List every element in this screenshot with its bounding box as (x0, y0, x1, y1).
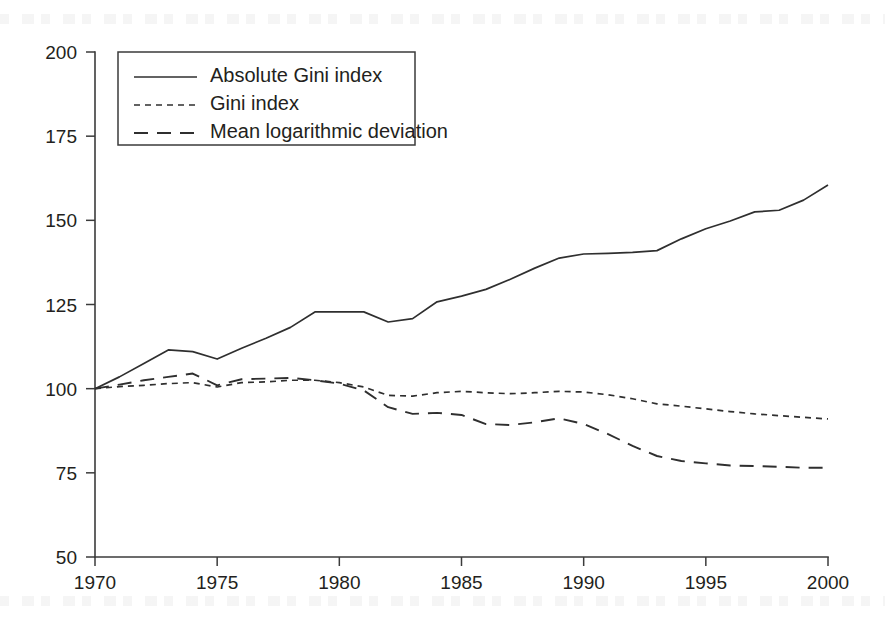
legend-label: Mean logarithmic deviation (210, 120, 448, 142)
line-chart-plot: 5075100125150175200 19701975198019851990… (0, 0, 885, 625)
x-tick-label: 1995 (685, 572, 727, 593)
y-tick-label: 150 (45, 210, 77, 231)
x-tick-label: 1985 (440, 572, 482, 593)
x-tick-label: 1990 (563, 572, 605, 593)
x-axis-ticks: 1970197519801985199019952000 (74, 557, 849, 593)
series-line-gini-index (95, 380, 828, 419)
y-tick-label: 75 (56, 463, 77, 484)
legend-label: Absolute Gini index (210, 64, 382, 86)
chart-figure: 5075100125150175200 19701975198019851990… (0, 0, 885, 625)
y-tick-label: 50 (56, 547, 77, 568)
series-line-mean-logarithmic-deviation (95, 374, 828, 468)
y-tick-label: 125 (45, 295, 77, 316)
x-tick-label: 1975 (196, 572, 238, 593)
legend-label: Gini index (210, 92, 299, 114)
x-tick-label: 2000 (807, 572, 849, 593)
x-tick-label: 1980 (318, 572, 360, 593)
data-series-group (95, 185, 828, 468)
series-line-absolute-gini-index (95, 185, 828, 389)
y-tick-label: 200 (45, 42, 77, 63)
y-tick-label: 100 (45, 379, 77, 400)
y-tick-label: 175 (45, 126, 77, 147)
x-tick-label: 1970 (74, 572, 116, 593)
chart-legend: Absolute Gini indexGini indexMean logari… (118, 52, 448, 145)
y-axis-ticks: 5075100125150175200 (45, 42, 95, 568)
